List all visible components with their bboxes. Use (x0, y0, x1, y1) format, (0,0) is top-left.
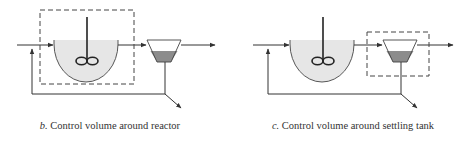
figure-c (253, 17, 453, 108)
caption-label: c. (272, 120, 279, 131)
settling-tank (147, 40, 181, 62)
reactor (54, 17, 118, 82)
caption-label: b. (40, 120, 48, 131)
figure-b (17, 10, 215, 108)
caption-c: c. Control volume around settling tank (253, 120, 453, 131)
waste-sludge-line (165, 94, 181, 108)
caption-text: Control volume around reactor (50, 120, 180, 131)
reactor (290, 17, 354, 82)
caption-text: Control volume around settling tank (282, 120, 434, 131)
settling-tank (383, 40, 417, 62)
caption-b: b. Control volume around reactor (20, 120, 200, 131)
waste-sludge-line (401, 94, 417, 108)
